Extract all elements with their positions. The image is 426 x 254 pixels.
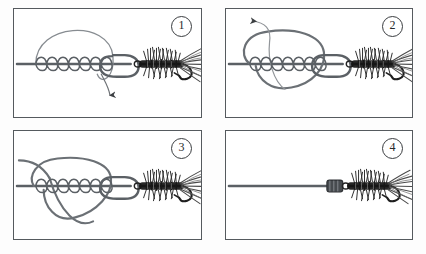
panel-step-2: 2 xyxy=(225,8,413,118)
step-number-badge: 1 xyxy=(171,16,192,37)
panel-step-1: 1 xyxy=(13,8,202,118)
step-number-badge: 2 xyxy=(382,16,403,37)
fly-illustration xyxy=(342,169,412,203)
step-number-badge: 3 xyxy=(171,138,192,159)
step-number-badge: 4 xyxy=(382,138,403,159)
fly-illustration xyxy=(346,47,412,81)
diagram-sheet: 1 2 xyxy=(0,0,426,254)
fly-illustration xyxy=(134,47,201,81)
finished-knot xyxy=(327,180,343,192)
fly-illustration xyxy=(134,169,201,203)
panel-step-4: 4 xyxy=(225,130,413,240)
panel-step-3: 3 xyxy=(13,130,202,240)
tag-loop xyxy=(100,55,139,77)
